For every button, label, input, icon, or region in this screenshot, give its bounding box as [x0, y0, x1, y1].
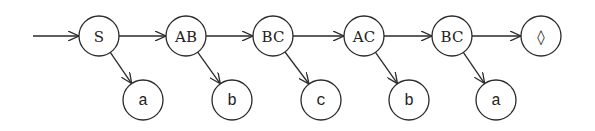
linked-list-diagram: SABBCACBC◊abcba: [0, 0, 595, 131]
leaf-node: b: [212, 80, 252, 120]
leaf-node: a: [123, 80, 163, 120]
chain-node: S: [79, 16, 119, 56]
node-label: ◊: [537, 28, 545, 46]
node-label: AB: [174, 28, 197, 46]
node-label: b: [404, 92, 414, 110]
node-label: AC: [352, 28, 375, 46]
nodes: SABBCACBC◊abcba: [79, 16, 561, 120]
leaf-node: c: [301, 80, 341, 120]
leaf-node: a: [476, 80, 516, 120]
chain-node: AC: [344, 16, 384, 56]
node-label: S: [94, 28, 104, 46]
child-arrow: [110, 52, 131, 83]
chain-node: BC: [253, 16, 293, 56]
chain-node: BC: [432, 16, 472, 56]
terminal-node: ◊: [521, 16, 561, 56]
node-label: a: [491, 92, 501, 110]
node-label: a: [138, 92, 148, 110]
child-arrow: [285, 52, 309, 84]
chain-node: AB: [166, 16, 206, 56]
node-label: b: [227, 92, 237, 110]
node-label: BC: [262, 28, 285, 46]
node-label: BC: [441, 28, 464, 46]
node-label: c: [316, 92, 326, 110]
child-arrow: [198, 52, 221, 84]
leaf-node: b: [389, 80, 429, 120]
child-arrow: [376, 52, 398, 83]
child-arrow: [463, 52, 484, 83]
